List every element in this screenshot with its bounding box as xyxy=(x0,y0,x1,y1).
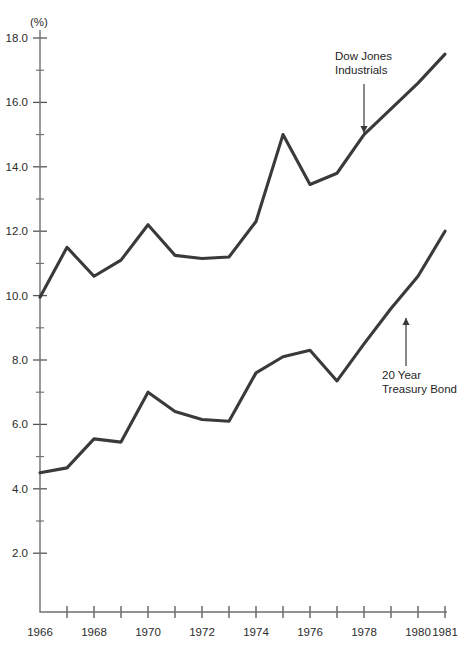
x-axis-tick-label: 1974 xyxy=(243,626,269,638)
y-axis-unit-label: (%) xyxy=(30,16,48,28)
treasury-bond-annotation-line1: 20 Year xyxy=(382,369,421,381)
x-axis-tick-label: 1972 xyxy=(189,626,215,638)
x-axis-tick-label: 1980 xyxy=(405,626,431,638)
series-line-20-year-treasury-bond xyxy=(40,231,445,473)
treasury-bond-annotation-line2: Treasury Bond xyxy=(382,383,457,395)
x-axis-tick-label: 1970 xyxy=(135,626,161,638)
series-group xyxy=(40,54,445,473)
chart-canvas: (%) 2.04.06.08.010.012.014.016.018.0 196… xyxy=(0,0,470,647)
chart-axes xyxy=(40,30,447,612)
series-line-dow-jones-industrials xyxy=(40,54,445,297)
y-axis-tick-label: 14.0 xyxy=(6,161,28,173)
y-axis-tick-label: 10.0 xyxy=(6,290,28,302)
treasury-bond-annotation-arrowhead-icon xyxy=(402,318,409,325)
x-axis-tick-label: 1968 xyxy=(81,626,107,638)
x-axis-tick-label: 1981 xyxy=(432,626,458,638)
y-axis-tick-label: 8.0 xyxy=(12,354,28,366)
dow-jones-annotation-line1: Dow Jones xyxy=(335,50,392,62)
y-axis-tick-label: 16.0 xyxy=(6,96,28,108)
x-axis-tick-label: 1966 xyxy=(27,626,53,638)
y-axis-tick-label: 2.0 xyxy=(12,547,28,559)
y-axis-tick-label: 18.0 xyxy=(6,32,28,44)
y-axis-tick-label: 6.0 xyxy=(12,418,28,430)
annotation-group: Dow JonesIndustrials20 YearTreasury Bond xyxy=(335,50,457,395)
y-axis-tick-label: 12.0 xyxy=(6,225,28,237)
y-axis-tick-label-group: 2.04.06.08.010.012.014.016.018.0 xyxy=(6,32,28,559)
x-axis-tick-label-group: 196619681970197219741976197819801981 xyxy=(27,626,458,638)
interest-rate-line-chart: (%) 2.04.06.08.010.012.014.016.018.0 196… xyxy=(0,0,470,647)
dow-jones-annotation-line2: Industrials xyxy=(335,64,388,76)
x-axis-tick-label: 1976 xyxy=(297,626,323,638)
y-axis-tick-label: 4.0 xyxy=(12,483,28,495)
x-axis-tick-label: 1978 xyxy=(351,626,377,638)
